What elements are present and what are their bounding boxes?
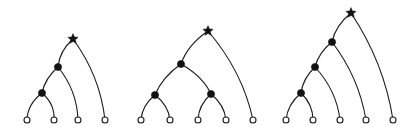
tree-edge bbox=[58, 39, 73, 67]
tree-edge bbox=[315, 67, 340, 120]
tree-edge bbox=[181, 64, 211, 94]
tree-edge bbox=[58, 67, 78, 120]
tree-edge bbox=[73, 39, 105, 120]
leaf-node bbox=[310, 117, 316, 123]
leaf-node bbox=[102, 117, 108, 123]
tree-edge bbox=[211, 94, 226, 120]
tree-edge bbox=[27, 93, 42, 120]
internal-node bbox=[328, 38, 335, 45]
tree-diagram-figure bbox=[0, 0, 417, 137]
panel-3 bbox=[283, 8, 396, 123]
tree-edge bbox=[315, 42, 332, 67]
tree-edge bbox=[141, 95, 155, 120]
tree-edge bbox=[351, 13, 393, 120]
internal-node bbox=[207, 90, 214, 97]
internal-node bbox=[297, 89, 304, 96]
leaf-node bbox=[195, 117, 201, 123]
tree-diagram-canvas bbox=[0, 0, 417, 137]
leaf-node bbox=[250, 117, 256, 123]
internal-node bbox=[54, 63, 61, 70]
leaf-node bbox=[75, 117, 81, 123]
internal-node bbox=[38, 89, 45, 96]
leaf-node bbox=[51, 117, 57, 123]
tree-edge bbox=[181, 31, 208, 64]
leaf-node bbox=[337, 117, 343, 123]
internal-node bbox=[311, 63, 318, 70]
tree-edge bbox=[198, 94, 211, 120]
leaf-node bbox=[223, 117, 229, 123]
panel-2 bbox=[138, 26, 256, 123]
panel-1 bbox=[24, 34, 108, 123]
internal-node bbox=[177, 60, 184, 67]
tree-edge bbox=[155, 95, 170, 120]
tree-edge bbox=[301, 67, 315, 93]
tree-edge bbox=[42, 93, 54, 120]
internal-node bbox=[151, 91, 158, 98]
tree-edge bbox=[42, 67, 58, 93]
leaf-node bbox=[363, 117, 369, 123]
tree-edge bbox=[332, 42, 366, 120]
tree-edge bbox=[286, 93, 301, 120]
tree-edge bbox=[208, 31, 253, 120]
tree-edge bbox=[155, 64, 181, 95]
leaf-node bbox=[283, 117, 289, 123]
leaf-node bbox=[390, 117, 396, 123]
leaf-node bbox=[24, 117, 30, 123]
leaf-node bbox=[138, 117, 144, 123]
tree-edge bbox=[301, 93, 313, 120]
leaf-node bbox=[167, 117, 173, 123]
